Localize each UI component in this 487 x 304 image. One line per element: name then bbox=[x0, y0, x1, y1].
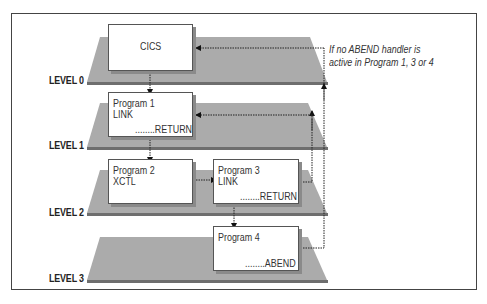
program-2-xctl: XCTL bbox=[113, 175, 136, 187]
program-1-return: ........RETURN bbox=[135, 123, 192, 135]
program-2-box: Program 2 XCTL bbox=[108, 159, 193, 204]
abend-note-line-1: If no ABEND handler is bbox=[329, 43, 420, 55]
program-3-link: LINK bbox=[218, 175, 238, 187]
cics-title: CICS bbox=[140, 40, 161, 52]
program-1-box: Program 1 LINK ........RETURN bbox=[108, 92, 193, 137]
level-3-label: LEVEL 3 bbox=[49, 272, 84, 284]
abend-note-line-2: active in Program 1, 3 or 4 bbox=[329, 56, 434, 68]
program-1-link: LINK bbox=[113, 108, 133, 120]
program-3-return: ........RETURN bbox=[240, 190, 297, 202]
level-1-label: LEVEL 1 bbox=[49, 139, 84, 151]
level-0-label: LEVEL 0 bbox=[49, 74, 84, 86]
program-4-title: Program 4 bbox=[218, 231, 260, 243]
program-4-abend: ........ABEND bbox=[245, 257, 296, 269]
program-4-box: Program 4 ........ABEND bbox=[213, 226, 299, 271]
level-2-label: LEVEL 2 bbox=[49, 206, 84, 218]
cics-box: CICS bbox=[108, 24, 193, 71]
program-3-box: Program 3 LINK ........RETURN bbox=[213, 159, 299, 204]
